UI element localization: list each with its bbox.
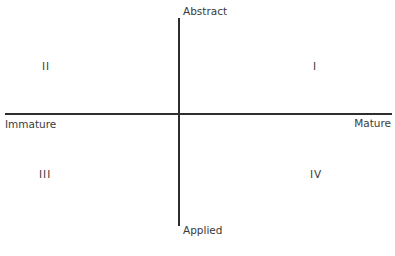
quadrant-label-i: I (313, 60, 317, 72)
quadrant-label-iii: III (39, 168, 51, 180)
quadrant-label-iv: IV (310, 168, 322, 180)
horizontal-axis (5, 113, 392, 115)
axis-label-mature: Mature (354, 117, 391, 129)
vertical-axis (178, 18, 180, 226)
axis-label-applied: Applied (183, 224, 222, 236)
quadrant-label-ii: II (42, 60, 50, 72)
axis-label-abstract: Abstract (183, 5, 227, 17)
axis-label-immature: Immature (5, 118, 56, 130)
